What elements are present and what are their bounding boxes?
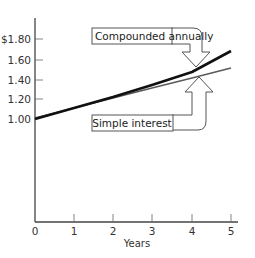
x-tick-label: 3 [149,225,156,237]
y-tick-label: 1.40 [8,74,31,86]
interest-growth-chart: $1.80 1.60 1.40 1.20 1.00 0 1 2 3 4 5 Ye… [0,0,255,258]
x-tick-label: 1 [71,225,78,237]
compound-callout: Compounded annually [92,28,213,67]
y-tick-label: 1.20 [8,93,31,105]
x-tick-label: 2 [110,225,117,237]
y-tick-label: $1.80 [1,33,31,45]
y-tick-label: 1.00 [8,113,31,125]
simple-callout-label: Simple interest [92,117,171,129]
x-tick-label: 5 [228,225,235,237]
x-axis-label: Years [123,238,150,249]
x-tick-label: 4 [189,225,196,237]
x-ticks: 0 1 2 3 4 5 [32,214,235,237]
y-ticks: $1.80 1.60 1.40 1.20 1.00 [1,33,43,125]
compound-callout-label: Compounded annually [95,30,213,42]
y-tick-label: 1.60 [8,54,31,66]
x-tick-label: 0 [32,225,39,237]
